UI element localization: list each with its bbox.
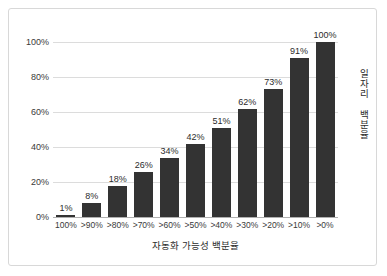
x-axis-tick-label: >90% — [79, 220, 105, 230]
bar[interactable] — [290, 58, 309, 217]
y-axis-tick-label: 60% — [13, 107, 49, 117]
x-axis-tick-label: >80% — [105, 220, 131, 230]
bar-value-label: 100% — [305, 30, 345, 40]
bar-slot: 26% — [131, 42, 157, 217]
bar-series: 1%8%18%26%34%42%51%62%73%91%100% — [53, 42, 338, 217]
bar[interactable] — [186, 144, 205, 218]
y-axis-tick-label: 80% — [13, 72, 49, 82]
bar[interactable] — [134, 172, 153, 218]
bar[interactable] — [316, 42, 335, 217]
x-axis-tick-label: 100% — [53, 220, 79, 230]
y-axis-tick-label: 40% — [13, 142, 49, 152]
bar-slot: 73% — [260, 42, 286, 217]
y-axis-tick-labels: 0%20%40%60%80%100% — [9, 42, 49, 217]
y-axis-tick-label: 20% — [13, 177, 49, 187]
x-axis-title: 자동화 가능성 백분율 — [53, 238, 338, 252]
bar[interactable] — [82, 203, 101, 217]
gridline-0 — [53, 217, 338, 218]
bar[interactable] — [212, 128, 231, 217]
bar-slot: 62% — [234, 42, 260, 217]
bar-slot: 91% — [286, 42, 312, 217]
bar[interactable] — [108, 186, 127, 218]
bar-slot: 18% — [105, 42, 131, 217]
bar-slot: 100% — [312, 42, 338, 217]
x-axis-tick-label: >30% — [234, 220, 260, 230]
bar-slot: 42% — [183, 42, 209, 217]
x-axis-tick-label: >0% — [312, 220, 338, 230]
bar[interactable] — [238, 109, 257, 218]
y-axis-title: 일자리 백분율 — [356, 69, 370, 140]
x-axis-tick-label: >60% — [157, 220, 183, 230]
bar[interactable] — [160, 158, 179, 218]
x-axis-tick-label: >10% — [286, 220, 312, 230]
bar-slot: 51% — [208, 42, 234, 217]
bar[interactable] — [264, 89, 283, 217]
bar-slot: 8% — [79, 42, 105, 217]
x-axis-tick-label: >70% — [131, 220, 157, 230]
y-axis-tick-label: 100% — [13, 37, 49, 47]
x-axis-tick-labels: 100%>90%>80%>70%>60%>50%>40%>30%>20%>10%… — [53, 220, 338, 230]
bar-slot: 34% — [157, 42, 183, 217]
y-axis-tick-label: 0% — [13, 212, 49, 222]
bar[interactable] — [56, 215, 75, 217]
x-axis-tick-label: >20% — [260, 220, 286, 230]
x-axis-tick-label: >40% — [208, 220, 234, 230]
x-axis-tick-label: >50% — [183, 220, 209, 230]
chart-frame: 0%20%40%60%80%100% 1%8%18%26%34%42%51%62… — [8, 8, 377, 266]
